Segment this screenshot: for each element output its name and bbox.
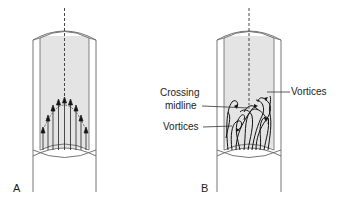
panel-label-b: B <box>201 182 208 194</box>
vortices-left-label: Vortices <box>163 121 199 132</box>
panel-b-tube <box>217 8 281 192</box>
crossing-midline-label-line1: Crossing <box>160 87 199 98</box>
panel-label-a: A <box>13 182 20 194</box>
vortices-right-label: Vortices <box>291 86 327 97</box>
crossing-midline-label-line2: midline <box>165 100 197 111</box>
